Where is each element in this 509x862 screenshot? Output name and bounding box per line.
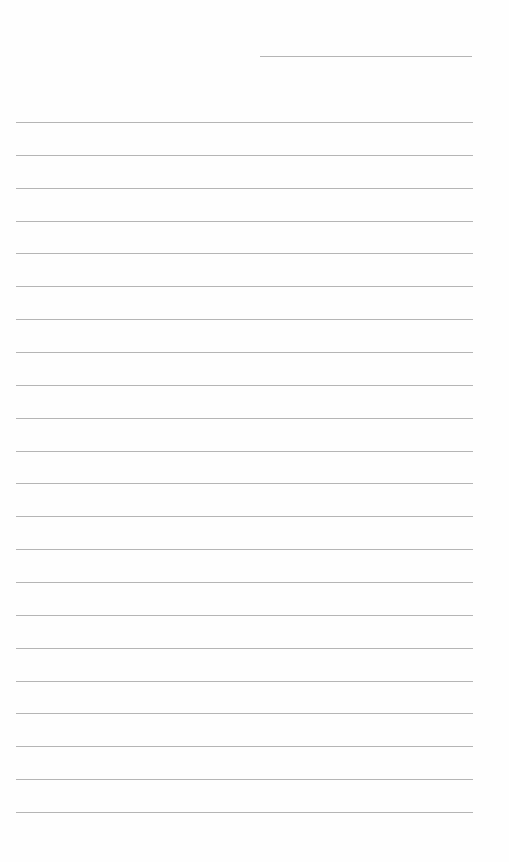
ruled-line [16,122,473,123]
date-header-line [260,56,472,57]
ruled-line [16,812,473,813]
ruled-line [16,451,473,452]
ruled-line [16,155,473,156]
ruled-line [16,549,473,550]
ruled-line [16,713,473,714]
ruled-line [16,188,473,189]
ruled-line [16,221,473,222]
ruled-line [16,253,473,254]
ruled-line [16,286,473,287]
ruled-line [16,483,473,484]
ruled-line [16,779,473,780]
ruled-line [16,582,473,583]
ruled-line [16,615,473,616]
ruled-line [16,516,473,517]
ruled-line [16,681,473,682]
lined-paper-page [0,0,509,862]
ruled-line [16,385,473,386]
ruled-line [16,319,473,320]
ruled-line [16,648,473,649]
ruled-line [16,418,473,419]
ruled-line [16,746,473,747]
ruled-line [16,352,473,353]
